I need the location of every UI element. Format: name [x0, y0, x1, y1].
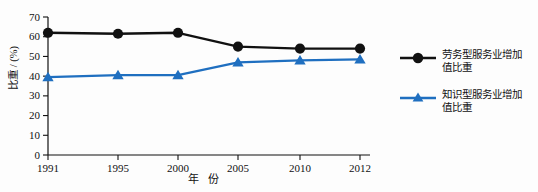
- legend-marker-triangle-icon: [398, 91, 438, 105]
- legend-entry-knowledge-services: 知识型服务业增加 值比重: [398, 88, 538, 114]
- x-tick-label: 1995: [98, 163, 138, 174]
- series-line-1: [48, 59, 360, 77]
- data-point-marker: [233, 41, 243, 51]
- data-point-marker: [295, 43, 305, 53]
- legend-entry-labor-services: 劳务型服务业增加 值比重: [398, 48, 538, 74]
- chart-legend: 劳务型服务业增加 值比重 知识型服务业增加 值比重: [398, 48, 538, 128]
- x-tick-marks: [48, 155, 360, 160]
- y-tick-label: 20: [18, 110, 40, 121]
- chart-figure: 70 60 50 40 30 20 10 0 1991 1995 2000 20…: [0, 0, 538, 192]
- legend-label-line1: 劳务型服务业增加: [442, 48, 536, 61]
- y-tick-label: 70: [18, 12, 40, 23]
- y-tick-label: 30: [18, 90, 40, 101]
- y-axis-title: 比重 / (%): [8, 31, 20, 105]
- data-point-marker: [43, 28, 53, 38]
- legend-label-line2: 值比重: [442, 61, 536, 74]
- x-tick-label: 2012: [340, 163, 380, 174]
- y-tick-label: 40: [18, 71, 40, 82]
- data-point-marker: [113, 29, 123, 39]
- x-axis-title: 年 份: [140, 170, 270, 186]
- x-tick-label: 2010: [280, 163, 320, 174]
- y-tick-label: 0: [18, 150, 40, 161]
- y-tick-label: 60: [18, 31, 40, 42]
- x-tick-label: 1991: [28, 163, 68, 174]
- data-point-marker: [355, 43, 365, 53]
- y-tick-label: 50: [18, 51, 40, 62]
- legend-label-line2: 值比重: [442, 101, 536, 114]
- series-layer: [42, 28, 365, 82]
- data-point-marker: [173, 28, 183, 38]
- y-tick-label: 10: [18, 130, 40, 141]
- legend-marker-circle-icon: [398, 51, 438, 65]
- series-line-0: [48, 33, 360, 49]
- legend-label-line1: 知识型服务业增加: [442, 88, 536, 101]
